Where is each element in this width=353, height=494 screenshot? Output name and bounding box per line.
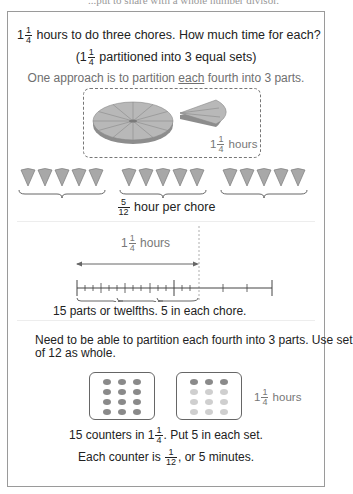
counters-intro: Need to be able to partition each fourth… <box>35 334 353 360</box>
problem-subtitle: (114 partitioned into 3 equal sets) <box>17 48 315 67</box>
counters-line-2: Each counter is 112, or 5 minutes. <box>17 448 315 467</box>
counter-set-quarter <box>176 372 242 420</box>
chore-group-3 <box>223 169 305 187</box>
counter-set-whole <box>89 372 155 420</box>
figure-frame: 114 hours to do three chores. How much t… <box>7 11 325 487</box>
fraction-one-fourth: 14 <box>88 48 95 67</box>
mixed-whole: 1 <box>17 28 24 42</box>
fraction-one-fourth: 14 <box>25 26 32 45</box>
number-line <box>17 222 315 302</box>
chore-group-1 <box>21 169 103 187</box>
counters-line-1: 15 counters in 114. Put 5 in each set. <box>17 426 315 445</box>
number-line-panel: 114 hours <box>17 222 315 320</box>
problem-statement: 114 hours to do three chores. How much t… <box>17 26 315 45</box>
result-per-chore: 512 hour per chore <box>17 198 315 217</box>
pie-label: 114 hours <box>210 135 257 154</box>
counters-panel: Need to be able to partition each fourth… <box>17 328 315 478</box>
emphasis-each: each <box>178 71 204 85</box>
counters-label: 114 hours <box>254 388 301 407</box>
problem-text: hours to do three chores. How much time … <box>33 28 321 42</box>
pie-container: 114 hours <box>83 88 261 158</box>
cutoff-header-text: ...put to share with a whole number divi… <box>88 0 279 6</box>
number-line-caption: 15 parts or twelfths. 5 in each chore. <box>53 304 246 318</box>
pie-partition-panel: 114 hours to do three chores. How much t… <box>17 16 315 216</box>
approach-text: One approach is to partition each fourth… <box>17 71 315 85</box>
chore-group-2 <box>122 169 204 187</box>
